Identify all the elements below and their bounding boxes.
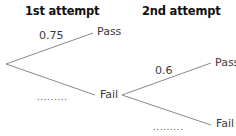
probability-tree-diagram: 1st attempt 2nd attempt 0.75 Pass ......… <box>0 0 236 136</box>
second-pass-probability: 0.6 <box>155 65 173 77</box>
branch-root-to-fail <box>6 64 95 95</box>
second-fail-probability-blank: ......... <box>153 122 183 132</box>
first-pass-label: Pass <box>97 26 121 38</box>
first-fail-probability-blank: ......... <box>37 92 67 102</box>
header-second-attempt: 2nd attempt <box>142 5 221 18</box>
header-first-attempt: 1st attempt <box>25 5 99 18</box>
tree-branches <box>0 0 236 136</box>
first-fail-label: Fail <box>100 89 118 101</box>
branch-fail-to-fail <box>122 95 211 125</box>
second-pass-label: Pass <box>215 57 236 69</box>
first-pass-probability: 0.75 <box>39 30 64 42</box>
second-fail-label: Fail <box>216 118 234 130</box>
